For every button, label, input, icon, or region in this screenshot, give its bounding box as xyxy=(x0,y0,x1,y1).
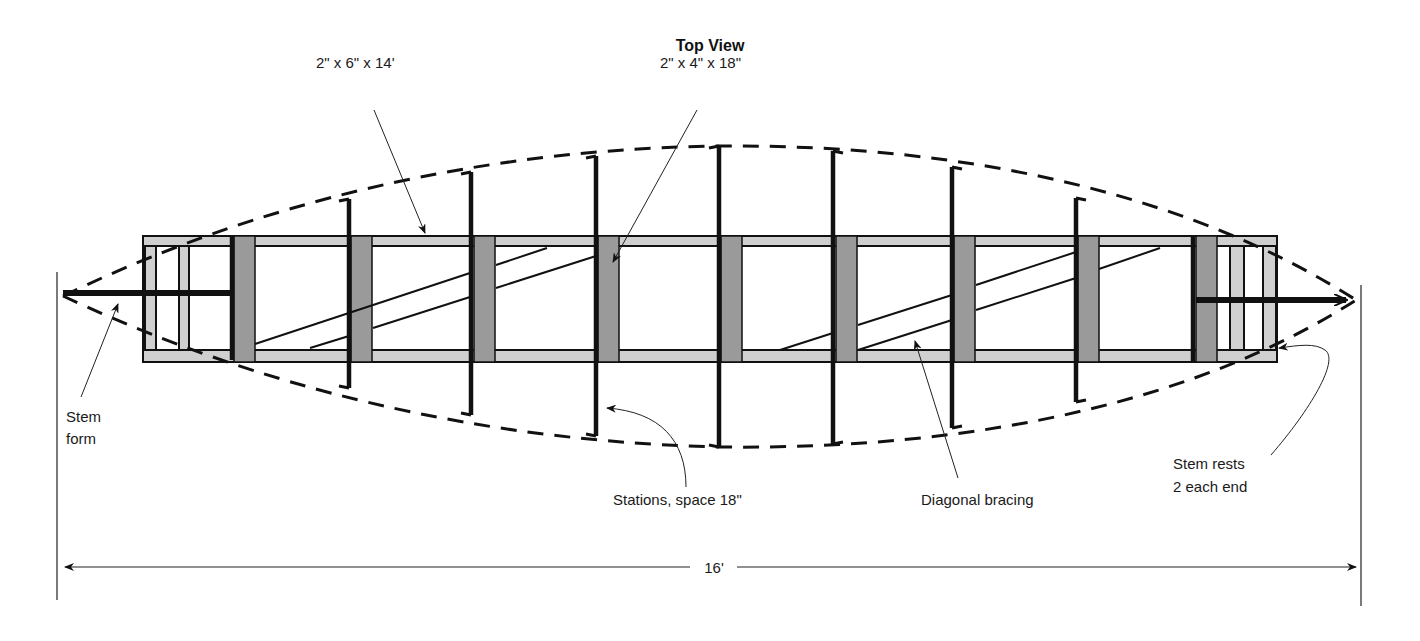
station-tick xyxy=(709,146,719,148)
block-callout: 2" x 4" x 18" xyxy=(613,54,741,262)
stations xyxy=(232,146,1193,447)
stem-rests-callout: Stem rests 2 each end xyxy=(1173,345,1329,495)
station-tick xyxy=(339,199,349,201)
diagonal-brace xyxy=(976,278,1076,310)
station-tick xyxy=(586,434,596,436)
hull-outline xyxy=(63,146,1356,447)
station-tick xyxy=(952,167,962,169)
station-tick xyxy=(461,172,471,174)
cross-block xyxy=(954,236,975,362)
top-rail xyxy=(143,236,1277,246)
stations-label: Stations, space 18" xyxy=(613,491,742,508)
station-tick xyxy=(709,445,719,447)
station-tick xyxy=(833,442,843,444)
diagonal-brace xyxy=(1099,248,1160,269)
cross-block xyxy=(474,236,495,362)
top-view-diagram: Top View 16' 2" x 6" x 14' 2" x 4" x 18"… xyxy=(0,0,1420,641)
station-tick xyxy=(461,413,471,415)
station-tick xyxy=(833,151,843,153)
strongback-frame xyxy=(143,236,1277,362)
diagonal-brace xyxy=(858,320,952,350)
cross-block xyxy=(721,236,742,362)
diagram-title: Top View xyxy=(676,37,745,54)
station-tick xyxy=(1076,400,1086,402)
stem-form-label-line2: form xyxy=(66,430,96,447)
cross-block xyxy=(351,236,372,362)
cross-block xyxy=(234,236,255,362)
station-tick xyxy=(339,386,349,388)
cross-block xyxy=(836,236,857,362)
diagonal-brace xyxy=(310,336,349,348)
stations-callout: Stations, space 18" xyxy=(607,408,742,508)
bottom-rail xyxy=(143,350,1277,362)
rail-label: 2" x 6" x 14' xyxy=(316,54,395,71)
stem-rests-label-line2: 2 each end xyxy=(1173,478,1247,495)
diagonal-brace xyxy=(858,295,952,325)
station-tick xyxy=(952,426,962,428)
diagonal-brace xyxy=(976,252,1076,285)
stem-form-label-line1: Stem xyxy=(66,408,101,425)
stem-rest xyxy=(179,246,189,350)
overall-length-label: 16' xyxy=(704,559,724,576)
station-tick xyxy=(1076,198,1086,200)
diagonal-brace xyxy=(373,297,470,328)
rail-callout: 2" x 6" x 14' xyxy=(316,54,425,233)
block-label: 2" x 4" x 18" xyxy=(660,54,741,71)
diagonal-brace xyxy=(780,333,833,350)
cross-block xyxy=(1078,236,1099,362)
stem-form-callout: Stem form xyxy=(66,304,118,447)
stem-rests-label-line1: Stem rests xyxy=(1173,455,1245,472)
cross-block xyxy=(598,236,619,362)
bracing-label: Diagonal bracing xyxy=(921,491,1034,508)
station-tick xyxy=(586,156,596,158)
diagonal-brace xyxy=(496,248,547,265)
